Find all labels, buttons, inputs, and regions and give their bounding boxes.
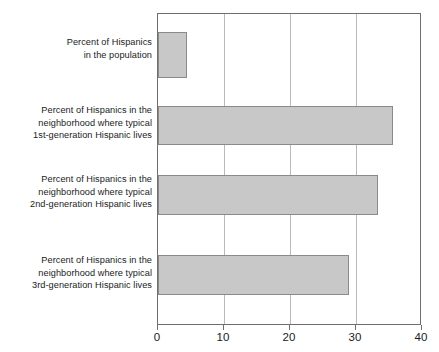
tick-mark-0 — [157, 325, 158, 330]
bar-chart-figure: Percent of Hispanics in the population P… — [0, 0, 439, 352]
bar-3rd-generation — [158, 255, 349, 295]
category-label-2nd-generation: Percent of Hispanics in the neighborhood… — [30, 173, 152, 211]
category-labels: Percent of Hispanics in the population P… — [0, 0, 152, 352]
category-label-1st-generation: Percent of Hispanics in the neighborhood… — [33, 104, 152, 142]
bar-population — [158, 32, 187, 78]
bar-2nd-generation — [158, 175, 378, 215]
bar-1st-generation — [158, 106, 393, 145]
tick-label-40: 40 — [415, 331, 428, 343]
tick-mark-40 — [421, 325, 422, 330]
tick-label-30: 30 — [349, 331, 362, 343]
tick-mark-20 — [289, 325, 290, 330]
category-label-population: Percent of Hispanics in the population — [67, 36, 152, 61]
tick-label-20: 20 — [283, 331, 296, 343]
tick-label-10: 10 — [217, 331, 230, 343]
category-label-3rd-generation: Percent of Hispanics in the neighborhood… — [32, 254, 152, 292]
tick-mark-30 — [355, 325, 356, 330]
gridline-30 — [356, 14, 357, 324]
tick-label-0: 0 — [154, 331, 160, 343]
plot-area — [157, 13, 421, 325]
tick-mark-10 — [223, 325, 224, 330]
